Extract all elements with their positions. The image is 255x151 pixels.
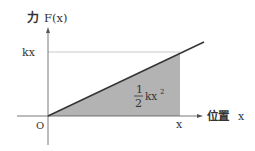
x-axis-arrow-icon: [197, 114, 203, 118]
y-axis-arrow-icon: [46, 27, 50, 33]
y-axis-label: F(x): [44, 11, 67, 25]
y-tick-label-kx: kx: [22, 46, 36, 59]
x-tick-label: x: [176, 118, 183, 131]
area-expression: kx: [145, 90, 157, 102]
area-fraction-denominator: 2: [135, 97, 142, 110]
origin-label: O: [36, 120, 44, 131]
area-exponent: 2: [160, 88, 164, 96]
force-position-diagram: 力 F(x) kx O x 位置 x 1 2 kx 2: [0, 0, 255, 151]
area-fraction-numerator: 1: [136, 83, 143, 96]
y-axis-label-cjk: 力: [27, 10, 39, 25]
x-axis-label-cjk: 位置: [207, 109, 230, 123]
x-axis-label: x: [238, 110, 245, 123]
